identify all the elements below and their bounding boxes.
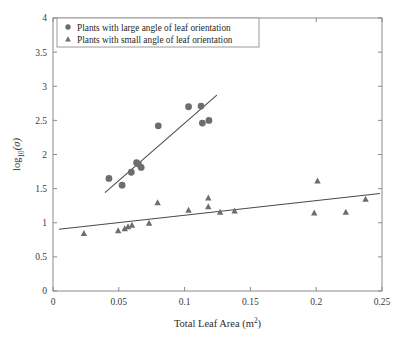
- x-tick-label: 0.2: [310, 297, 322, 307]
- data-point-triangle: [81, 230, 87, 236]
- y-tick-label: 1: [42, 218, 47, 228]
- data-point-circle: [206, 117, 213, 124]
- svg-text:log10(σ): log10(σ): [11, 138, 26, 171]
- data-point-triangle: [231, 207, 237, 213]
- y-tick-label: 1.5: [35, 184, 47, 194]
- plot-canvas: 00.050.10.150.20.2500.511.522.533.54Tota…: [0, 0, 408, 339]
- y-tick-label: 2.5: [35, 116, 47, 126]
- x-tick-label: 0.25: [374, 297, 391, 307]
- y-tick-label: 2: [42, 150, 47, 160]
- x-tick-label: 0.05: [110, 297, 127, 307]
- y-axis-title: log10(σ): [11, 138, 26, 171]
- y-tick-label: 0.5: [35, 252, 47, 262]
- legend-marker-circle: [65, 24, 70, 29]
- data-point-triangle: [311, 209, 317, 215]
- y-tick-label: 0: [42, 286, 47, 296]
- data-point-circle: [106, 175, 113, 182]
- data-point-circle: [185, 103, 192, 110]
- data-point-circle: [199, 120, 206, 127]
- data-point-triangle: [343, 209, 349, 215]
- x-tick-label: 0.15: [242, 297, 259, 307]
- data-point-triangle: [205, 194, 211, 200]
- data-point-triangle: [154, 199, 160, 205]
- data-point-circle: [138, 164, 145, 171]
- data-point-triangle: [115, 227, 121, 233]
- x-tick-label: 0: [51, 297, 56, 307]
- x-tick-label: 0.1: [179, 297, 191, 307]
- plot-frame: [53, 18, 382, 291]
- y-tick-label: 3: [42, 82, 47, 92]
- y-tick-label: 4: [42, 13, 47, 23]
- scatter-plot-figure: 00.050.10.150.20.2500.511.522.533.54Tota…: [0, 0, 408, 339]
- x-axis-title: Total Leaf Area (m2): [174, 317, 262, 330]
- y-tick-label: 3.5: [35, 48, 47, 58]
- legend-label: Plants with small angle of leaf orientat…: [77, 35, 233, 45]
- data-point-triangle: [362, 196, 368, 202]
- data-point-triangle: [205, 203, 211, 209]
- data-point-circle: [155, 122, 162, 129]
- trend-line: [105, 95, 217, 193]
- data-point-circle: [128, 169, 135, 176]
- data-point-triangle: [314, 177, 320, 183]
- data-point-circle: [198, 103, 205, 110]
- data-point-triangle: [146, 220, 152, 226]
- data-layer: [59, 95, 380, 236]
- data-point-triangle: [129, 222, 135, 228]
- data-point-circle: [119, 182, 126, 189]
- data-point-triangle: [185, 207, 191, 213]
- legend-label: Plants with large angle of leaf orientat…: [77, 23, 231, 33]
